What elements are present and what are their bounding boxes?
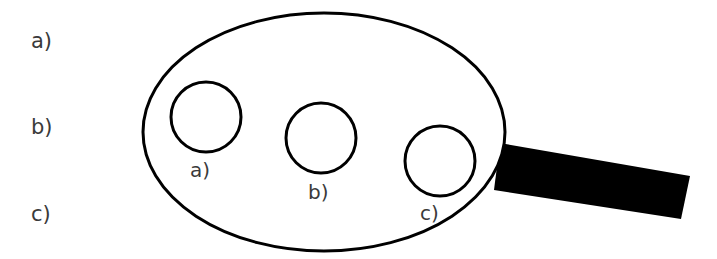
inner-circle-c (405, 126, 475, 196)
legend-item-c: c) (31, 204, 51, 225)
figure-drawing (0, 0, 717, 259)
inner-circle-label-a: a) (190, 160, 210, 180)
inner-circle-b (286, 103, 356, 173)
legend-item-a: a) (31, 31, 52, 52)
handle-shape (494, 143, 690, 219)
inner-circle-label-b: b) (308, 182, 329, 202)
inner-circle-label-c: c) (420, 203, 439, 223)
diagram-canvas: a) b) c) a) b) c) (0, 0, 717, 259)
legend-item-b: b) (31, 117, 53, 138)
inner-circle-a (171, 82, 241, 152)
